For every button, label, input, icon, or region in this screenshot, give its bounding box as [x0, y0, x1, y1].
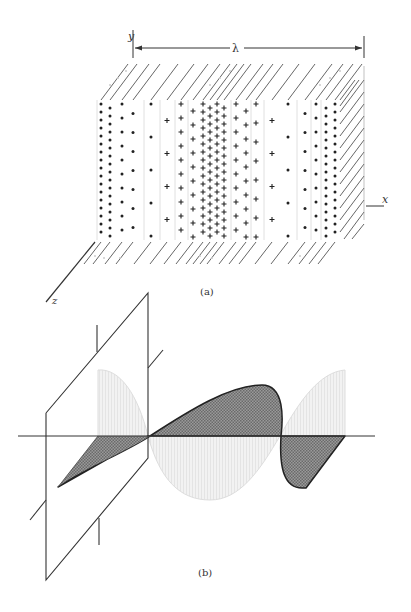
positive-charge-plus	[270, 217, 275, 222]
positive-charge-plus	[215, 174, 220, 179]
negative-charge-dot	[121, 215, 124, 218]
positive-charge-plus	[222, 130, 227, 135]
positive-charge-plus	[201, 126, 206, 131]
negative-charge-dot	[334, 127, 337, 130]
negative-charge-dot	[304, 150, 307, 153]
negative-charge-dot	[132, 112, 135, 115]
positive-charge-plus	[191, 221, 196, 226]
positive-charge-plus	[234, 102, 239, 107]
negative-charge-dot	[334, 207, 337, 210]
negative-charge-dot	[121, 159, 124, 162]
negative-charge-dot	[287, 136, 290, 139]
positive-charge-plus	[222, 186, 227, 191]
negative-charge-dot	[100, 199, 103, 202]
positive-charge-plus	[201, 174, 206, 179]
positive-charge-plus	[208, 106, 213, 111]
negative-charge-dot	[334, 183, 337, 186]
negative-charge-dot	[315, 145, 318, 148]
positive-charge-plus	[222, 154, 227, 159]
positive-charge-plus	[222, 218, 227, 223]
steepened-wave-trough	[281, 436, 345, 488]
z-axis-label: z	[51, 295, 58, 306]
negative-charge-dot	[100, 175, 103, 178]
positive-charge-plus	[244, 123, 249, 128]
positive-charge-plus	[222, 106, 227, 111]
positive-charge-plus	[254, 140, 259, 145]
positive-charge-plus	[215, 190, 220, 195]
negative-charge-dot	[325, 107, 328, 110]
sine-wave-reference-crest	[280, 370, 345, 436]
positive-charge-plus	[244, 207, 249, 212]
negative-charge-dot	[121, 187, 124, 190]
negative-charge-dot	[121, 145, 124, 148]
negative-charge-dot	[334, 159, 337, 162]
negative-charge-dot	[325, 115, 328, 118]
positive-charge-plus	[208, 234, 213, 239]
positive-charge-plus	[191, 123, 196, 128]
positive-charge-plus	[208, 146, 213, 151]
positive-charge-plus	[179, 228, 184, 233]
negative-charge-dot	[109, 171, 112, 174]
positive-charge-plus	[208, 170, 213, 175]
positive-charge-plus	[234, 186, 239, 191]
negative-charge-dot	[334, 191, 337, 194]
negative-charge-dot	[325, 211, 328, 214]
positive-charge-plus	[208, 226, 213, 231]
positive-charge-plus	[244, 235, 249, 240]
negative-charge-dot	[100, 215, 103, 218]
positive-charge-plus	[222, 202, 227, 207]
positive-charge-plus	[208, 210, 213, 215]
positive-charge-plus	[208, 114, 213, 119]
negative-charge-dot	[325, 171, 328, 174]
negative-charge-dot	[325, 195, 328, 198]
negative-charge-dot	[150, 169, 153, 172]
negative-charge-dot	[100, 135, 103, 138]
positive-charge-plus	[234, 172, 239, 177]
negative-charge-dot	[100, 183, 103, 186]
positive-charge-plus	[215, 222, 220, 227]
negative-charge-dot	[325, 155, 328, 158]
negative-charge-dot	[109, 179, 112, 182]
positive-charge-plus	[201, 206, 206, 211]
positive-charge-plus	[234, 228, 239, 233]
negative-charge-dot	[150, 103, 153, 106]
sine-wave-reference	[98, 370, 148, 436]
negative-charge-dot	[132, 150, 135, 153]
positive-charge-plus	[179, 200, 184, 205]
positive-charge-plus	[201, 102, 206, 107]
positive-charge-plus	[179, 130, 184, 135]
panel-b-caption: (b)	[198, 567, 212, 578]
negative-charge-dot	[325, 163, 328, 166]
negative-charge-dot	[121, 103, 124, 106]
positive-charge-plus	[201, 118, 206, 123]
positive-charge-plus	[165, 217, 170, 222]
negative-charge-dot	[315, 117, 318, 120]
negative-charge-dot	[325, 179, 328, 182]
positive-charge-plus	[254, 178, 259, 183]
panel-a-caption: (a)	[200, 286, 214, 297]
negative-charge-dot	[121, 117, 124, 120]
positive-charge-plus	[244, 193, 249, 198]
negative-charge-dot	[334, 103, 337, 106]
positive-charge-plus	[179, 214, 184, 219]
x-axis-label: x	[382, 193, 389, 206]
positive-charge-plus	[201, 214, 206, 219]
negative-charge-dot	[109, 123, 112, 126]
negative-charge-dot	[315, 131, 318, 134]
positive-charge-plus	[222, 226, 227, 231]
positive-charge-plus	[208, 178, 213, 183]
positive-charge-plus	[208, 138, 213, 143]
positive-charge-plus	[201, 198, 206, 203]
positive-charge-plus	[201, 222, 206, 227]
negative-charge-dot	[287, 202, 290, 205]
negative-charge-dot	[325, 123, 328, 126]
negative-charge-dot	[121, 131, 124, 134]
positive-charge-plus	[234, 200, 239, 205]
negative-charge-dot	[304, 188, 307, 191]
negative-charge-dot	[287, 103, 290, 106]
negative-charge-dot	[100, 103, 103, 106]
negative-charge-dot	[100, 207, 103, 210]
positive-charge-plus	[201, 150, 206, 155]
negative-charge-dot	[334, 135, 337, 138]
negative-charge-dot	[109, 203, 112, 206]
